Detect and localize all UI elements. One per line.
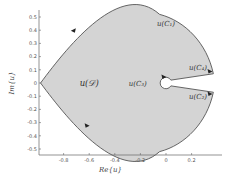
annotation-c3: u(C₃) [129,80,147,88]
x-axis-label: Re{u} [98,166,122,174]
y-tick-label: -0.5 [27,146,37,152]
y-tick-label: 0.5 [29,14,37,20]
y-tick-label: -0.2 [27,106,37,112]
annotation-region: u(𝒟) [80,78,99,88]
annotation-c1: u(C₁) [157,20,175,28]
y-tick-label: 0.1 [29,67,37,73]
arrow-upper-boundary [71,28,76,33]
y-tick-label: 0.2 [29,53,37,59]
annotation-c2: u(C₂) [189,93,207,101]
y-tick-label: 0.4 [29,27,37,33]
y-tick-label: 0.3 [29,40,37,46]
region-u-d [41,5,214,162]
x-tick-label: -0.8 [59,157,69,163]
y-tick-label: -0.4 [27,133,37,139]
y-axis-label: Im{u} [8,72,16,96]
y-tick-label: -0.1 [27,93,37,99]
x-tick-label: 0 [164,157,167,163]
region-layer [41,5,214,162]
x-tick-label: -0.4 [110,157,120,163]
y-tick-label: 0 [34,80,37,86]
figure: -0.8-0.6-0.4-0.200.20.50.40.30.20.10-0.1… [0,0,229,181]
x-tick-label: -0.2 [136,157,146,163]
x-tick-label: 0.2 [188,157,196,163]
y-tick-label: -0.3 [27,119,37,125]
x-tick-label: -0.6 [84,157,94,163]
annotation-c4: u(C₄) [189,64,207,72]
